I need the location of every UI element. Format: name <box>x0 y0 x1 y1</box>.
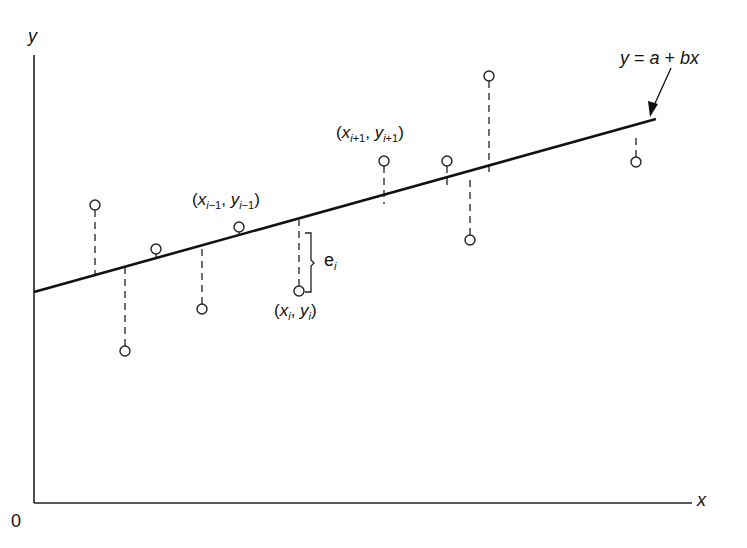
arrowhead-icon <box>648 101 658 117</box>
curr-point-label: (xi, yi) <box>274 301 317 322</box>
comma: , <box>365 123 374 142</box>
residual-lines <box>95 81 636 346</box>
data-point-circle <box>234 222 244 232</box>
y-axis-label: y <box>28 26 37 47</box>
paren-close: ) <box>254 190 260 209</box>
data-point-circle <box>294 286 304 296</box>
data-point-circle <box>465 235 475 245</box>
next-point-label: (xi+1, yi+1) <box>336 123 404 144</box>
x-var: x <box>342 123 351 142</box>
x-sub-offset: +1 <box>353 132 366 144</box>
residual-sub: i <box>334 260 336 272</box>
residual-e: e <box>324 250 334 270</box>
comma: , <box>221 190 230 209</box>
data-point-circle <box>442 156 452 166</box>
equation-label: y = a + bx <box>620 48 699 69</box>
regression-line <box>34 119 656 292</box>
x-sub-offset: −1 <box>209 199 222 211</box>
prev-point-label: (xi−1, yi−1) <box>192 190 260 211</box>
equation-y: y <box>620 48 629 68</box>
x-axis-label: x <box>697 490 706 511</box>
y-var: y <box>231 190 240 209</box>
equation-plus: + <box>660 48 681 68</box>
origin-label: 0 <box>11 511 21 532</box>
x-var: x <box>198 190 207 209</box>
y-sub-offset: −1 <box>242 199 255 211</box>
equation-bx: bx <box>680 48 699 68</box>
equation-a: a <box>650 48 660 68</box>
data-point-circle <box>120 346 130 356</box>
regression-diagram <box>0 0 747 548</box>
data-point-circle <box>631 157 641 167</box>
paren-close: ) <box>398 123 404 142</box>
residual-brace <box>305 233 314 292</box>
comma: , <box>291 301 300 320</box>
data-point-circle <box>484 71 494 81</box>
data-points <box>90 71 641 356</box>
residual-label: ei <box>324 250 336 272</box>
data-point-circle <box>379 156 389 166</box>
x-var: x <box>280 301 289 320</box>
y-sub-offset: +1 <box>386 132 399 144</box>
equation-eq: = <box>629 48 650 68</box>
data-point-circle <box>90 200 100 210</box>
y-var: y <box>300 301 309 320</box>
paren-close: ) <box>311 301 317 320</box>
data-point-circle <box>197 304 207 314</box>
data-point-circle <box>151 244 161 254</box>
y-var: y <box>375 123 384 142</box>
